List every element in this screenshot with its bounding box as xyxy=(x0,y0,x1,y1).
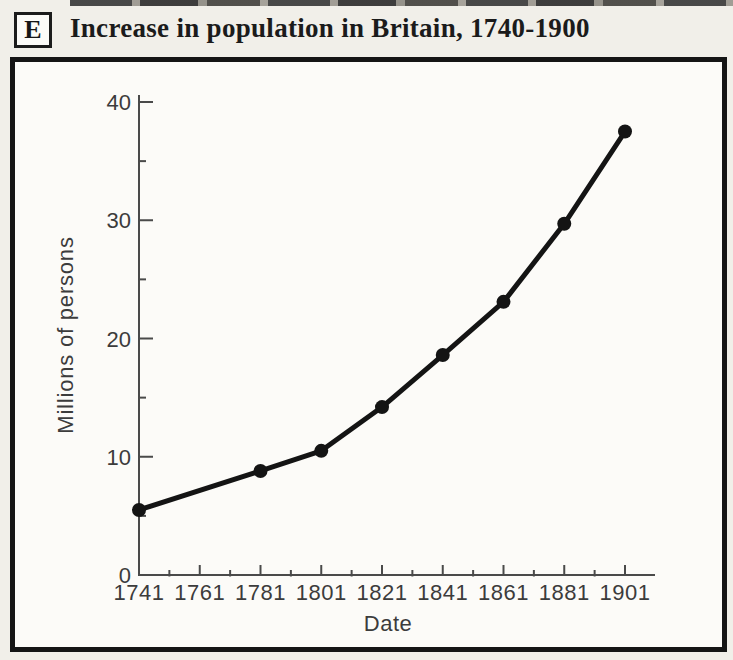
y-tick-label: 10 xyxy=(107,445,131,470)
x-tick-label: 1801 xyxy=(296,580,347,605)
plot-svg: 0102030401741176117811801182118411861188… xyxy=(15,62,722,647)
figure-header: E Increase in population in Britain, 174… xyxy=(14,12,723,52)
chart-figure: 0102030401741176117811801182118411861188… xyxy=(10,57,727,652)
data-point xyxy=(314,444,328,458)
data-point xyxy=(132,503,146,517)
data-point xyxy=(254,464,268,478)
x-tick-label: 1821 xyxy=(357,580,408,605)
y-tick-label: 20 xyxy=(107,327,131,352)
y-tick-label: 30 xyxy=(107,208,131,233)
data-point xyxy=(436,348,450,362)
x-tick-label: 1781 xyxy=(235,580,286,605)
y-tick-label: 40 xyxy=(107,90,131,115)
x-tick-label: 1741 xyxy=(114,580,165,605)
population-line xyxy=(139,132,625,510)
data-point xyxy=(375,400,389,414)
data-point xyxy=(618,125,632,139)
x-tick-label: 1761 xyxy=(174,580,225,605)
section-badge-label: E xyxy=(24,15,41,44)
x-axis-label: Date xyxy=(364,611,412,637)
x-tick-label: 1841 xyxy=(417,580,468,605)
x-tick-label: 1881 xyxy=(539,580,590,605)
section-badge: E xyxy=(14,12,52,48)
axis-lines xyxy=(139,95,655,575)
y-axis-label: Millions of persons xyxy=(53,236,79,433)
scan-artifact-strip xyxy=(70,0,733,6)
figure-title: Increase in population in Britain, 1740-… xyxy=(70,13,590,44)
scanned-page: E Increase in population in Britain, 174… xyxy=(0,0,733,660)
x-tick-label: 1861 xyxy=(478,580,529,605)
data-point xyxy=(497,295,511,309)
data-point xyxy=(557,217,571,231)
x-tick-label: 1901 xyxy=(600,580,651,605)
